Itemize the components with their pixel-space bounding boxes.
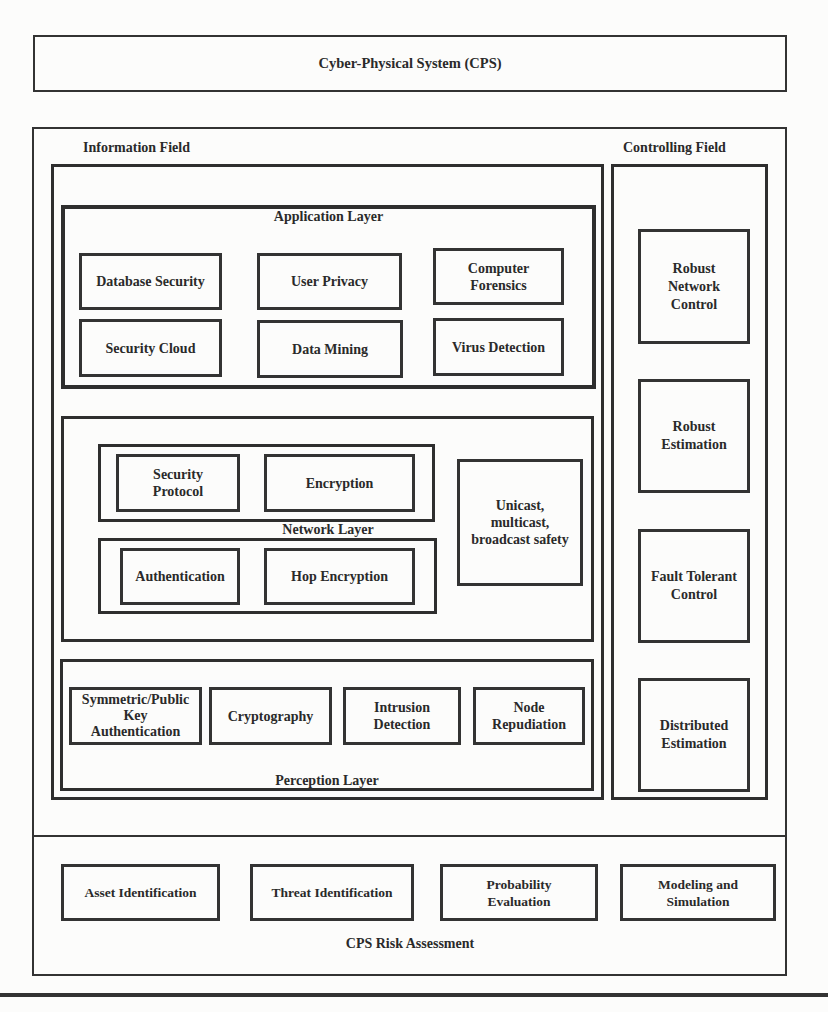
ctrl-item-fault-tolerant-control: Fault Tolerant Control (638, 529, 750, 643)
app-item-database-security: Database Security (79, 253, 222, 310)
perc-item-node-repudiation: Node Repudiation (473, 687, 585, 745)
perc-item-key-authentication: Symmetric/Public Key Authentication (69, 687, 202, 745)
perc-item-intrusion-detection: Intrusion Detection (343, 687, 461, 745)
cps-title-box: Cyber-Physical System (CPS) (33, 35, 787, 92)
perc-item-cryptography: Cryptography (209, 687, 332, 745)
ctrl-item-robust-network-control: Robust Network Control (638, 229, 750, 344)
net-item-security-protocol: Security Protocol (116, 454, 240, 512)
risk-assessment-divider (32, 835, 787, 837)
ctrl-item-distributed-estimation: Distributed Estimation (638, 678, 750, 792)
app-item-computer-forensics: Computer Forensics (433, 248, 564, 305)
net-item-hop-encryption: Hop Encryption (264, 548, 415, 605)
net-item-cast-safety: Unicast, multicast, broadcast safety (457, 459, 583, 586)
app-item-user-privacy: User Privacy (257, 253, 402, 310)
cps-title: Cyber-Physical System (CPS) (318, 55, 501, 72)
net-item-authentication: Authentication (120, 548, 240, 605)
risk-item-probability-evaluation: Probability Evaluation (440, 864, 598, 921)
risk-item-threat-identification: Threat Identification (250, 864, 414, 921)
app-item-virus-detection: Virus Detection (433, 318, 564, 376)
risk-item-asset-identification: Asset Identification (61, 864, 220, 921)
app-item-data-mining: Data Mining (257, 320, 403, 378)
ctrl-item-robust-estimation: Robust Estimation (638, 379, 750, 493)
app-item-security-cloud: Security Cloud (79, 319, 222, 377)
risk-item-modeling-simulation: Modeling and Simulation (620, 864, 776, 921)
controlling-field-label: Controlling Field (623, 140, 726, 156)
perception-layer-label: Perception Layer (60, 773, 594, 789)
net-item-encryption: Encryption (264, 454, 415, 512)
network-layer-label: Network Layer (228, 522, 428, 538)
information-field-label: Information Field (83, 140, 190, 156)
risk-assessment-label: CPS Risk Assessment (310, 936, 510, 952)
application-layer-label: Application Layer (61, 209, 596, 225)
bottom-rule (0, 993, 828, 997)
